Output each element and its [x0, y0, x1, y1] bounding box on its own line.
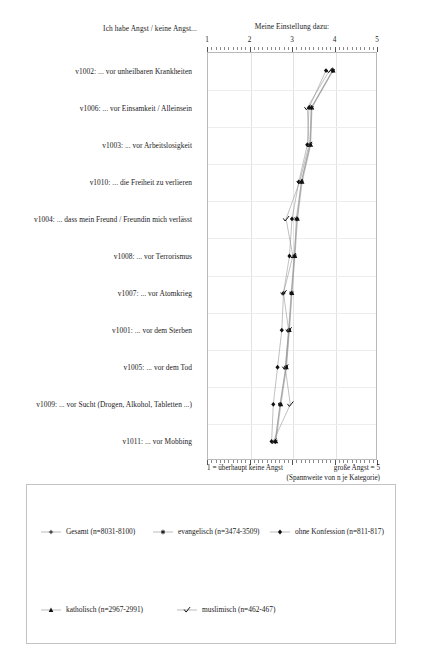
legend-item[interactable]: katholisch (n=2967-2991)	[41, 603, 143, 617]
data-point-plus	[49, 530, 53, 534]
legend-marker-triangle	[41, 605, 61, 615]
legend-item-label: Gesamt (n=8031-8100)	[66, 527, 135, 537]
category-label: v1002: ... vor unheilbaren Krankheiten	[75, 66, 192, 75]
category-label: v1008: ... vor Terrorismus	[114, 252, 192, 261]
legend-box: Gesamt (n=8031-8100)evangelisch (n=3474-…	[26, 484, 396, 644]
legend-item-label: katholisch (n=2967-2991)	[66, 605, 143, 615]
left-column-header: Ich habe Angst / keine Angst...	[80, 24, 220, 33]
series-line	[273, 68, 334, 444]
category-label: v1005: ... vor dem Tod	[124, 363, 192, 372]
legend-row-2: katholisch (n=2967-2991)muslimisch (n=46…	[27, 603, 395, 617]
category-label: v1011: ... vor Mobbing	[123, 437, 192, 446]
x-tick-label-4: 4	[333, 36, 337, 44]
legend-marker-star	[153, 527, 173, 537]
legend-item[interactable]: evangelisch (n=3474-3509)	[153, 525, 260, 539]
data-point-diamond	[271, 402, 275, 407]
legend-item-label: muslimisch (n=462-467)	[202, 605, 275, 615]
category-label: v1007: ... vor Atomkrieg	[118, 289, 192, 298]
legend-item-label: evangelisch (n=3474-3509)	[178, 527, 260, 537]
legend-marker-check	[177, 605, 197, 615]
series-polyline	[272, 71, 326, 442]
chart-title: Meine Einstellung dazu:	[207, 22, 377, 31]
axis-caption-low: 1 = überhaupt keine Angst	[207, 464, 283, 472]
legend-item[interactable]: Gesamt (n=8031-8100)	[41, 525, 135, 539]
legend-item-label: ohne Konfession (n=811-817)	[295, 527, 384, 537]
data-point-diamond	[290, 217, 294, 222]
category-label: v1003: ... vor Arbeitslosigkeit	[102, 140, 192, 149]
data-point-diamond	[280, 328, 284, 333]
series-polyline	[276, 71, 333, 442]
series-line	[271, 68, 333, 444]
data-series-layer	[207, 52, 377, 460]
legend-marker-plus	[41, 527, 61, 537]
legend-item[interactable]: ohne Konfession (n=811-817)	[270, 525, 384, 539]
sample-size-note: (Spannweite von n je Kategorie)	[180, 474, 380, 482]
category-label: v1006: ... vor Einsamkeit / Alleinsein	[80, 103, 192, 112]
series-line	[273, 68, 335, 443]
axis-caption-high: große Angst = 5	[300, 464, 380, 472]
chart-page: Ich habe Angst / keine Angst... Meine Ei…	[0, 0, 421, 672]
category-label: v1004: ... dass mein Freund / Freundin m…	[34, 214, 192, 223]
series-polyline	[273, 71, 329, 442]
x-tick-label-2: 2	[248, 36, 252, 44]
legend-marker-diamond	[270, 527, 290, 537]
data-point-diamond	[278, 530, 282, 535]
series-polyline	[275, 71, 332, 442]
category-labels: v1002: ... vor unheilbaren Krankheitenv1…	[0, 52, 200, 460]
x-tick-label-5: 5	[375, 36, 379, 44]
legend-row-1: Gesamt (n=8031-8100)evangelisch (n=3474-…	[27, 525, 395, 539]
x-tick-label-3: 3	[290, 36, 294, 44]
category-label: v1009: ... vor Sucht (Drogen, Alkohol, T…	[36, 400, 192, 409]
series-line	[270, 68, 329, 444]
category-label: v1010: ... die Freiheit zu verlieren	[90, 177, 192, 186]
data-point-diamond	[275, 365, 279, 370]
category-label: v1001: ... vor dem Sterben	[112, 326, 192, 335]
x-tick-label-1: 1	[205, 36, 209, 44]
legend-item[interactable]: muslimisch (n=462-467)	[177, 603, 275, 617]
